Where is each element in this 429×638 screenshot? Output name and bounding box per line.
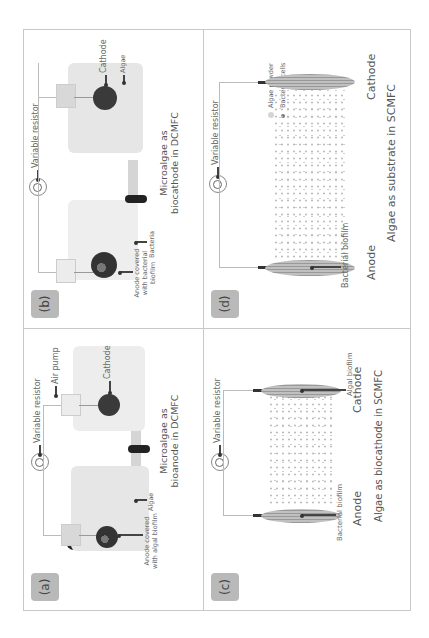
panel-b-caption: Microalgae as biocathode in DCMFC xyxy=(158,108,180,218)
cathode-label: Cathode xyxy=(103,345,112,379)
variable-resistor-label: Variable resistor xyxy=(33,378,42,443)
cathode-electrode xyxy=(98,394,120,416)
panel-c-caption: Algae as biocathode in SCMFC xyxy=(373,361,384,531)
panel-label-d: (d) xyxy=(211,290,239,318)
cathode-electrode xyxy=(265,74,355,90)
cathode-label: Cathode xyxy=(99,39,108,73)
cathode-label: Cathode xyxy=(351,367,364,413)
anode-electrode xyxy=(96,526,118,548)
bacterial-biofilm-label: Bacterial biofilm xyxy=(336,484,344,541)
algae-label: Algae xyxy=(147,493,155,511)
membrane xyxy=(128,445,150,453)
panel-d: (d) Variable resistor Algae powder Bacte… xyxy=(203,29,411,328)
bacteria-label: Bacteria xyxy=(148,231,156,258)
variable-resistor-label: Variable resistor xyxy=(213,378,222,443)
cathode-electrode xyxy=(93,86,117,110)
electrolyte-chamber xyxy=(273,90,345,260)
panel-label-b: (b) xyxy=(31,290,59,318)
cathode-cap xyxy=(56,84,76,108)
anode-label: Anode xyxy=(351,491,364,526)
anode-cap xyxy=(61,524,81,546)
electrolyte-chamber xyxy=(268,396,333,506)
panel-a: (a) Variable resistor Air pump Cathode A… xyxy=(23,328,203,611)
anode-label: Anode xyxy=(365,245,378,280)
cathode-cap xyxy=(61,394,81,416)
panel-label-a: (a) xyxy=(31,573,59,601)
panel-c: (c) Variable resistor Bacterial biofilm … xyxy=(203,328,411,611)
panel-a-caption: Microalgae as bioanode in DCMFC xyxy=(158,386,180,496)
anode-electrode xyxy=(91,252,117,278)
anode-cap xyxy=(56,259,76,283)
cathode-label: Cathode xyxy=(365,54,378,100)
panel-label-c: (c) xyxy=(211,573,239,601)
air-pump-label: Air pump xyxy=(51,347,60,384)
algae-label: Algae xyxy=(119,55,127,73)
anode-label: Anode covered with algal biofilm xyxy=(143,511,159,571)
membrane xyxy=(125,195,147,203)
bacterial-biofilm-label: Bacterial biofilm xyxy=(341,223,350,288)
panel-b: (b) Variable resistor Cathode Algae Anod… xyxy=(23,29,203,328)
panel-d-caption: Algae as substrate in SCMFC xyxy=(385,78,398,248)
